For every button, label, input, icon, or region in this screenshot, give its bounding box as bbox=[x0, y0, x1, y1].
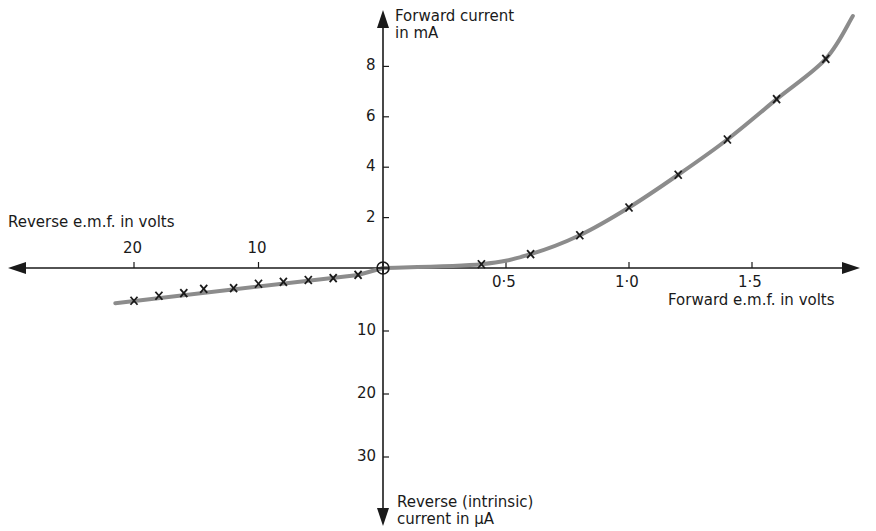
x-forward-label: Forward e.m.f. in volts bbox=[668, 292, 835, 309]
y-reverse-tick-label: 20 bbox=[357, 385, 376, 402]
x-forward-tick-label: 1·5 bbox=[738, 274, 762, 291]
y-reverse-label-line1: Reverse (intrinsic) bbox=[397, 494, 533, 511]
tick-marks bbox=[134, 66, 752, 457]
x-reverse-tick-label: 20 bbox=[123, 240, 142, 257]
x-forward-tick-label: 1·0 bbox=[615, 274, 639, 291]
x-forward-tick-label: 0·5 bbox=[492, 274, 516, 291]
diode-characteristic-chart bbox=[0, 0, 876, 531]
y-forward-tick-label: 4 bbox=[366, 158, 376, 175]
y-forward-tick-label: 2 bbox=[366, 209, 376, 226]
y-reverse-label-line2: current in µA bbox=[397, 511, 494, 528]
y-axis-up-arrow-icon bbox=[377, 10, 389, 28]
x-reverse-label: Reverse e.m.f. in volts bbox=[8, 214, 175, 231]
reverse-curve bbox=[115, 268, 383, 303]
y-axis-down-arrow-icon bbox=[377, 508, 389, 526]
y-reverse-tick-label: 30 bbox=[357, 448, 376, 465]
forward-curve bbox=[383, 16, 853, 268]
x-reverse-tick-label: 10 bbox=[248, 240, 267, 257]
x-axis-right-arrow-icon bbox=[842, 262, 860, 274]
y-forward-label-line1: Forward current bbox=[395, 8, 514, 25]
origin-marker-icon bbox=[377, 262, 389, 274]
y-forward-label-line2: in mA bbox=[395, 25, 438, 42]
x-axis-left-arrow-icon bbox=[8, 262, 26, 274]
y-forward-tick-label: 8 bbox=[366, 57, 376, 74]
y-reverse-tick-label: 10 bbox=[357, 322, 376, 339]
y-forward-tick-label: 6 bbox=[366, 108, 376, 125]
